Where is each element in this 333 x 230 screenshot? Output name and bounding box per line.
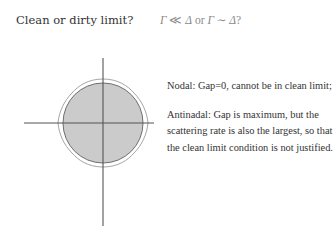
similar-operator: ∼ <box>214 14 229 26</box>
notes-panel: Nodal: Gap=0, cannot be in clean limit; … <box>167 78 333 168</box>
antinodal-note: Antinadal: Gap is maximum, but the scatt… <box>167 107 333 157</box>
question-mark: ? <box>236 14 241 26</box>
or-word: or <box>192 14 207 26</box>
fermi-surface-diagram <box>0 0 170 230</box>
gamma-delta-formula: Γ ≪ Δ or Γ ∼ Δ? <box>160 13 241 27</box>
nodal-note: Nodal: Gap=0, cannot be in clean limit; <box>167 78 333 95</box>
